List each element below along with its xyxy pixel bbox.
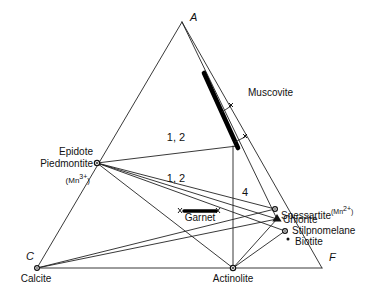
triangle-edge-A-C bbox=[37, 22, 182, 268]
diagram-canvas bbox=[0, 0, 380, 297]
spessartite-ion-charge: 2+ bbox=[343, 205, 351, 212]
label-calcite: Calcite bbox=[21, 273, 52, 284]
field-label-middle: 1, 2 bbox=[167, 173, 185, 184]
label-piedmontite: Piedmontite bbox=[40, 158, 93, 169]
label-muscovite: Muscovite bbox=[248, 87, 293, 98]
apex-label-f: F bbox=[329, 252, 336, 263]
spessartite-ion-open: (Mn bbox=[331, 208, 343, 215]
acf-ternary-diagram: A C F Muscovite Epidote Piedmontite (Mn3… bbox=[0, 0, 380, 297]
label-garnet: Garnet bbox=[185, 212, 216, 223]
piedmontite-ion-close: ) bbox=[87, 176, 90, 185]
spessartite-ion: (Mn2+) bbox=[331, 208, 353, 215]
node-epidote-core bbox=[96, 162, 98, 164]
apex-label-a: A bbox=[190, 12, 197, 23]
field-label-right: 4 bbox=[242, 187, 248, 198]
piedmontite-ion-open: (Mn bbox=[66, 176, 80, 185]
label-actinolite: Actinolite bbox=[213, 273, 254, 284]
piedmontite-ion-charge: 3+ bbox=[79, 173, 87, 180]
tie-line-A-chlorite bbox=[182, 22, 277, 219]
x-tick-garnet-left bbox=[178, 208, 182, 213]
label-biotite: Biotite bbox=[295, 236, 323, 247]
tie-line-calcite-chlorite bbox=[37, 219, 277, 268]
node-biotite bbox=[287, 238, 290, 241]
label-stilpnomelane: Stilpnomelane bbox=[292, 225, 355, 236]
label-piedmontite-ion: (Mn3+) bbox=[66, 171, 90, 186]
tie-line-calcite-spessartite bbox=[37, 209, 275, 268]
label-epidote: Epidote bbox=[59, 146, 93, 157]
spessartite-ion-close: ) bbox=[351, 208, 353, 215]
tie-line-actinolite-stilpnomelane bbox=[233, 231, 285, 268]
node-actinolite-core bbox=[232, 267, 234, 269]
tie-line-epidote-muscovite bbox=[97, 146, 237, 163]
muscovite-bar bbox=[204, 73, 238, 148]
label-chlorite: Chlorite bbox=[283, 214, 317, 225]
tie-line-epidote-spessartite bbox=[97, 163, 275, 209]
node-stilpnomelane-core bbox=[284, 230, 286, 232]
apex-label-c: C bbox=[26, 251, 34, 262]
field-label-upper: 1, 2 bbox=[167, 132, 185, 143]
node-spessartite-core bbox=[274, 208, 276, 210]
node-calcite-core bbox=[36, 267, 38, 269]
